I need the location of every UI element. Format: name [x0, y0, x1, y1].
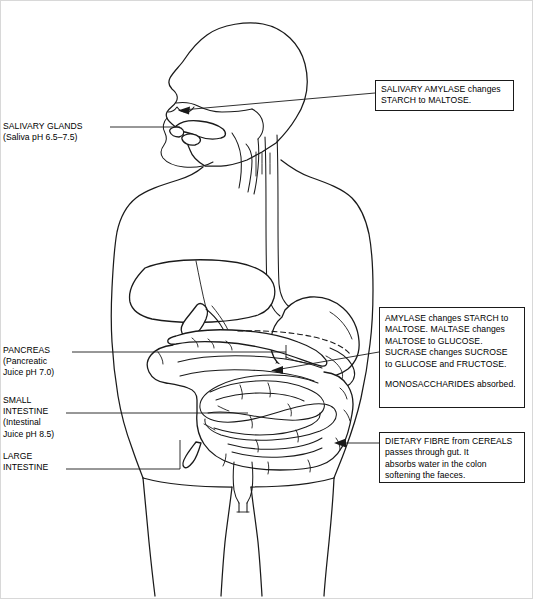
right-leg-inner-outline [251, 487, 262, 596]
oesophagus-right-wall [277, 135, 292, 309]
callout-monosaccharides-text: MONOSACCHARIDES absorbed. [385, 379, 516, 389]
salivary-gland-sublingual [170, 127, 184, 137]
appendix-outline [183, 442, 201, 468]
label-salivary-glands: SALIVARY GLANDS (Saliva pH 6.5–7.5) [3, 121, 123, 143]
hip-line-right-outline [251, 478, 334, 487]
digestive-system-diagram: SALIVARY AMYLASE changes STARCH to MALTO… [0, 0, 534, 600]
salivary-gland-submandibular [182, 134, 201, 145]
rectum-group [233, 462, 253, 512]
callout-dietary-fibre: DIETARY FIBRE from CEREALS passes throug… [379, 432, 525, 483]
label-large-intestine: LARGE INTESTINE [3, 451, 93, 473]
label-pancreas: PANCREAS (Pancreatic Juice pH 7.0) [3, 345, 93, 379]
label-small-intestine: SMALL INTESTINE (Intestinal Juice pH 8.5… [3, 395, 93, 440]
callout-intestinal-enzymes: AMYLASE changes STARCH to MALTOSE. MALTA… [379, 307, 525, 408]
anal-canal-outline [239, 503, 247, 512]
right-leg-outer-outline [324, 478, 334, 596]
hip-line-outline [143, 478, 232, 487]
callout-spacer [385, 370, 520, 379]
rectum-left-wall [233, 462, 239, 503]
callout-salivary-amylase: SALIVARY AMYLASE changes STARCH to MALTO… [375, 80, 514, 111]
left-leg-outer-outline [143, 478, 155, 596]
left-leg-inner-outline [221, 487, 232, 596]
callout-intestinal-enzymes-text: AMYLASE changes STARCH to MALTOSE. MALTA… [385, 313, 508, 369]
